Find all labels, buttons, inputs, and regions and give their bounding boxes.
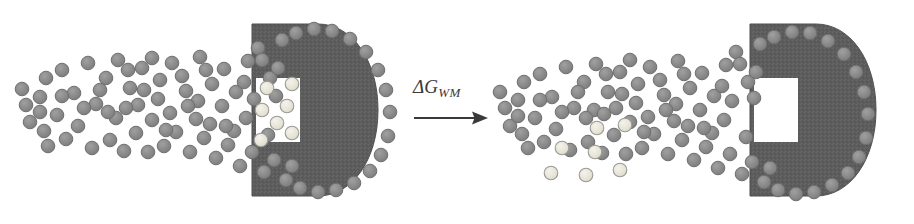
delta-g-subscript: WM [438,85,461,100]
ordered-water [285,126,299,140]
ordered-water [555,141,569,155]
ordered-water [254,133,268,147]
delta-g-label: ΔGWM [413,76,461,101]
panel-state-left [15,22,397,199]
ordered-water [579,168,593,182]
ordered-water [270,116,284,130]
ordered-water-group-left [254,77,299,147]
ordered-water [260,81,274,95]
ordered-water [544,166,558,180]
figure-canvas: ΔGWM [0,0,914,224]
delta-g-symbol: ΔG [413,76,438,97]
ordered-water [255,103,269,117]
ordered-water [280,99,294,113]
ordered-water [613,163,627,177]
ordered-water [588,145,602,159]
diagram-svg [0,0,914,224]
ordered-water [285,77,299,91]
ordered-water [618,118,632,132]
reaction-arrow [414,112,488,125]
panel-state-right [493,24,876,201]
ordered-water [590,121,604,135]
